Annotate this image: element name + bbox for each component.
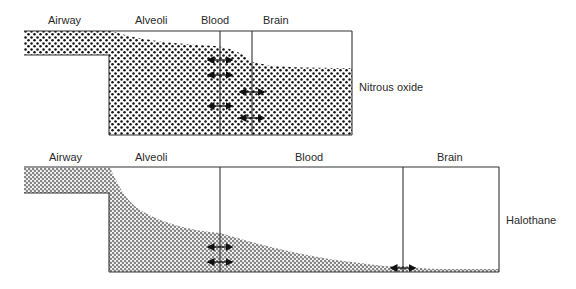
bottom-label-blood: Blood — [295, 151, 323, 163]
agent-label-halothane: Halothane — [506, 214, 556, 226]
top-label-alveoli: Alveoli — [135, 14, 167, 26]
halothane-panel — [24, 167, 499, 272]
anesthetic-uptake-diagram — [0, 0, 576, 289]
bottom-label-brain: Brain — [437, 151, 463, 163]
nitrous-oxide-gas-fill — [24, 31, 352, 135]
nitrous-oxide-panel — [24, 31, 352, 135]
bottom-label-airway: Airway — [49, 151, 82, 163]
bottom-label-alveoli: Alveoli — [135, 151, 167, 163]
agent-label-nitrous-oxide: Nitrous oxide — [359, 81, 423, 93]
top-label-brain: Brain — [263, 14, 289, 26]
top-label-blood: Blood — [201, 14, 229, 26]
top-label-airway: Airway — [48, 14, 81, 26]
halothane-gas-fill — [24, 168, 499, 272]
